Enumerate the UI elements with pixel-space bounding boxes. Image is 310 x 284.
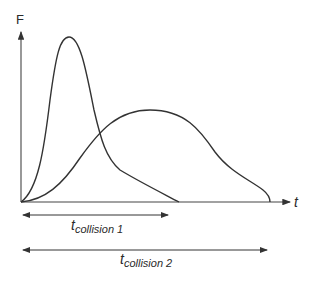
duration-label-collision-1: tcollision 1 bbox=[71, 217, 123, 235]
y-axis-label: F bbox=[16, 12, 24, 27]
x-axis-label: t bbox=[294, 194, 299, 210]
curve-collision-2 bbox=[21, 110, 270, 202]
duration-label-collision-2: tcollision 2 bbox=[120, 251, 172, 269]
force-time-diagram: F t tcollision 1 tcollision 2 bbox=[0, 0, 310, 284]
curve-collision-1 bbox=[21, 37, 179, 202]
